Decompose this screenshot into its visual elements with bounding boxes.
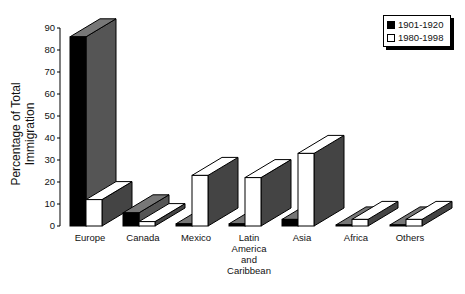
y-tick-label: 90 <box>35 22 55 33</box>
y-tick-label: 70 <box>35 66 55 77</box>
legend: 1901-1920 1980-1998 <box>383 15 451 47</box>
category-label: Europe <box>60 232 120 243</box>
y-tick-label: 20 <box>35 176 55 187</box>
category-label: Africa <box>326 232 386 243</box>
legend-item-1980-1998: 1980-1998 <box>387 31 447 44</box>
y-tick-label: 40 <box>35 132 55 143</box>
y-tick-label: 50 <box>35 110 55 121</box>
white-swatch-icon <box>387 34 395 42</box>
category-label: Canada <box>113 232 173 243</box>
y-tick-label: 60 <box>35 88 55 99</box>
y-tick-label: 0 <box>35 220 55 231</box>
category-label: LatinAmericaandCaribbean <box>219 232 279 276</box>
y-tick-label: 80 <box>35 44 55 55</box>
black-swatch-icon <box>387 21 395 29</box>
category-label: Asia <box>272 232 332 243</box>
category-label: Others <box>380 232 440 243</box>
category-label: Mexico <box>166 232 226 243</box>
legend-item-1901-1920: 1901-1920 <box>387 18 447 31</box>
y-tick-label: 30 <box>35 154 55 165</box>
y-tick-label: 10 <box>35 198 55 209</box>
